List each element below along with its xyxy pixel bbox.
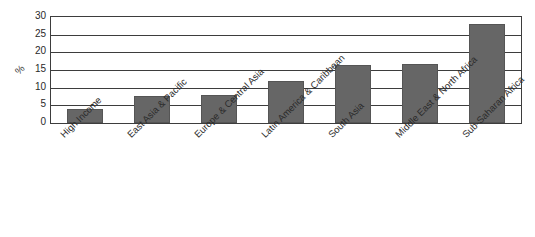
y-axis-tick-label: 20 (24, 46, 46, 56)
bar-chart: % 051015202530 High IncomeEast Asia & Pa… (0, 0, 535, 237)
y-axis-tick-label: 10 (24, 82, 46, 92)
y-axis-tick-labels: 051015202530 (24, 10, 46, 130)
y-axis-tick-label: 30 (24, 11, 46, 21)
y-axis-tick-label: 25 (24, 29, 46, 39)
y-axis-tick-label: 5 (24, 99, 46, 109)
y-axis-tick-label: 15 (24, 64, 46, 74)
x-axis-category-labels: High IncomeEast Asia & PacificEurope & C… (0, 124, 535, 234)
